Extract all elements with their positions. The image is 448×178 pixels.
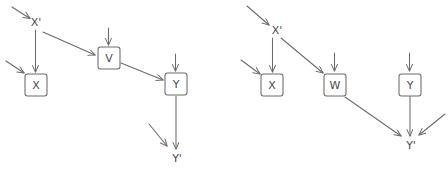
node-xprime-right[interactable]: X' [272,24,283,37]
node-xprime-left-label: X' [31,16,42,29]
node-xprime-right-label: X' [272,24,283,37]
exogenous-arrow-to-x-upperleft-left [6,61,24,73]
node-x-right-label: X [268,79,276,92]
exogenous-arrow-to-xprime-right [247,6,269,25]
node-w-right-label: W [330,79,341,92]
node-w-right[interactable]: W [324,74,346,96]
edge-xprime-to-w-right [281,38,323,73]
node-y-right-label: Y [406,79,414,92]
node-yprime-right[interactable]: Y' [405,139,416,152]
node-v-left[interactable]: V [98,47,120,69]
exogenous-arrow-to-xprime-left [12,7,30,19]
exogenous-arrow-to-yprime-right [419,114,445,135]
node-y-right[interactable]: Y [399,74,421,96]
node-x-left-label: X [32,79,40,92]
edge-v-to-y-left [121,63,163,80]
node-yprime-right-label: Y' [405,139,416,152]
node-y-left-label: Y [172,78,180,91]
edge-w-to-yprime-right [345,97,401,136]
edge-xprime-to-v-left [43,32,95,55]
node-x-left[interactable]: X [25,74,47,96]
node-y-left[interactable]: Y [165,73,187,95]
exogenous-arrow-to-x-upperleft-right [241,60,260,74]
figure-canvas: X' X V Y Y' X' X W [0,0,448,178]
node-yprime-left-label: Y' [171,152,182,165]
exogenous-arrow-to-yprime-left [149,124,167,146]
node-yprime-left[interactable]: Y' [171,152,182,165]
node-xprime-left[interactable]: X' [31,16,42,29]
causal-diagram-figure: X' X V Y Y' X' X W [0,0,448,178]
node-v-left-label: V [105,52,113,65]
left-panel-nodes: X' X V Y Y' [25,16,187,165]
node-x-right[interactable]: X [261,74,283,96]
